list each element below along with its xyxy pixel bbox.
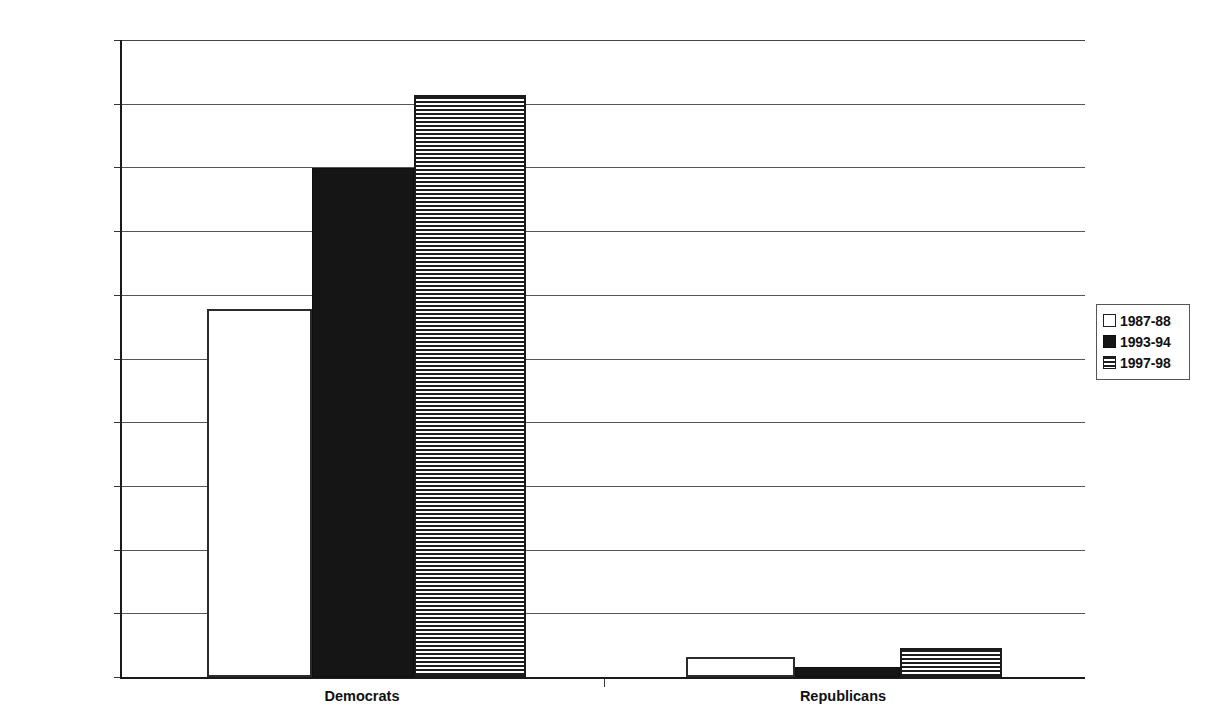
y-axis-tick-800000 xyxy=(114,422,120,423)
bar-republicans-1987-88 xyxy=(686,657,795,677)
legend-item-1997-98: 1997-98 xyxy=(1103,352,1184,373)
y-axis-tick-400000 xyxy=(114,550,120,551)
legend: 1987-88 1993-94 1997-98 xyxy=(1096,304,1190,380)
x-axis-label-democrats: Democrats xyxy=(325,688,400,704)
y-axis-tick-1800000 xyxy=(114,104,120,105)
y-axis-tick-1600000 xyxy=(114,167,120,168)
bar-republicans-1993-94 xyxy=(795,667,900,677)
legend-label-1993-94: 1993-94 xyxy=(1120,334,1171,350)
legend-item-1987-88: 1987-88 xyxy=(1103,310,1184,331)
legend-label-1997-98: 1997-98 xyxy=(1120,355,1171,371)
y-axis-tick-600000 xyxy=(114,486,120,487)
y-axis-tick-1400000 xyxy=(114,231,120,232)
y-axis-tick-2000000 xyxy=(114,40,120,41)
x-axis-tick-separator xyxy=(604,679,605,687)
legend-label-1987-88: 1987-88 xyxy=(1120,313,1171,329)
legend-swatch-horizontal-stripes-icon xyxy=(1103,356,1116,369)
bar-democrats-1997-98 xyxy=(414,95,526,677)
bar-democrats-1993-94 xyxy=(312,168,414,677)
legend-swatch-open-white-icon xyxy=(1103,314,1116,327)
y-axis-tick-0 xyxy=(114,677,120,678)
x-axis-label-republicans: Republicans xyxy=(800,688,886,704)
bar-republicans-1997-98 xyxy=(900,648,1002,677)
y-axis-tick-1200000 xyxy=(114,295,120,296)
y-axis-tick-200000 xyxy=(114,613,120,614)
legend-item-1993-94: 1993-94 xyxy=(1103,331,1184,352)
bar-chart: $2,000,000 1,800,000 1,600,000 1,400,000… xyxy=(0,0,1219,721)
legend-swatch-solid-black-icon xyxy=(1103,335,1116,348)
plot-area xyxy=(120,40,1085,679)
y-axis-labels: $2,000,000 1,800,000 1,600,000 1,400,000… xyxy=(0,0,110,721)
bars xyxy=(122,40,1085,677)
bar-democrats-1987-88 xyxy=(207,309,312,677)
y-axis-tick-1000000 xyxy=(114,359,120,360)
